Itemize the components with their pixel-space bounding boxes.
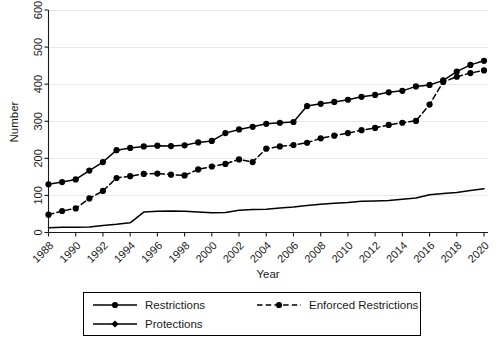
- data-point-marker: [86, 167, 92, 173]
- data-point-marker: [112, 302, 118, 308]
- data-point-marker: [209, 138, 215, 144]
- data-point-marker: [372, 125, 378, 131]
- data-point-marker: [141, 171, 147, 177]
- x-tick-label: 1990: [57, 239, 83, 265]
- x-tick-label: 1988: [30, 239, 56, 265]
- legend-swatch-diamond-solid: [92, 317, 138, 331]
- data-point-marker: [467, 62, 473, 68]
- data-point-marker: [154, 143, 160, 149]
- data-point-marker: [358, 127, 364, 133]
- data-point-marker: [100, 188, 106, 194]
- legend-label: Protections: [145, 317, 203, 331]
- data-point-marker: [127, 145, 133, 151]
- data-point-marker: [331, 133, 337, 139]
- data-point-marker: [168, 143, 174, 149]
- data-point-marker: [127, 173, 133, 179]
- data-point-marker: [481, 67, 487, 73]
- data-point-marker: [222, 161, 228, 167]
- x-tick-label: 2002: [220, 239, 246, 265]
- data-point-marker: [59, 208, 65, 214]
- data-point-marker: [154, 170, 160, 176]
- data-series-group: [45, 1, 487, 228]
- y-tick-label: 500: [32, 38, 44, 56]
- data-point-marker: [290, 142, 296, 148]
- legend-entry-restrictions[interactable]: Restrictions: [92, 296, 205, 314]
- data-point-marker: [45, 212, 51, 218]
- data-point-marker: [141, 143, 147, 149]
- series-line: [49, 70, 485, 214]
- data-point-marker: [209, 163, 215, 169]
- y-tick-label: 400: [32, 75, 44, 93]
- data-point-marker: [113, 175, 119, 181]
- data-point-marker: [440, 79, 446, 85]
- y-tick-label: 200: [32, 149, 44, 167]
- data-point-marker: [73, 176, 79, 182]
- data-point-marker: [290, 119, 296, 125]
- data-point-marker: [181, 172, 187, 178]
- x-tick-label: 2016: [411, 239, 437, 265]
- x-axis-ticks: 1988199019921994199619982000200220042006…: [30, 233, 491, 265]
- data-point-marker: [181, 142, 187, 148]
- y-tick-label: 0: [32, 229, 44, 235]
- legend-entry-enforced-restrictions[interactable]: Enforced Restrictions: [256, 296, 418, 314]
- legend-entries: RestrictionsEnforced RestrictionsProtect…: [84, 293, 420, 335]
- data-point-marker: [331, 99, 337, 105]
- y-tick-label: 300: [32, 112, 44, 130]
- data-point-marker: [413, 83, 419, 89]
- y-axis-ticks: 0100200300400500600: [32, 1, 48, 236]
- data-point-marker: [45, 181, 51, 187]
- data-point-marker: [100, 159, 106, 165]
- data-point-marker: [250, 159, 256, 165]
- data-point-marker: [358, 94, 364, 100]
- data-point-marker: [318, 135, 324, 141]
- x-axis-title: Year: [256, 268, 279, 280]
- x-tick-label: 2012: [356, 239, 382, 265]
- x-tick-label: 2008: [302, 239, 328, 265]
- data-point-marker: [59, 179, 65, 185]
- data-point-marker: [263, 146, 269, 152]
- data-point-marker: [277, 120, 283, 126]
- x-tick-label: 2018: [438, 239, 464, 265]
- x-tick-label: 2010: [329, 239, 355, 265]
- x-tick-label: 2006: [275, 239, 301, 265]
- data-point-marker: [195, 139, 201, 145]
- x-tick-label: 1992: [84, 239, 110, 265]
- y-tick-label: 100: [32, 186, 44, 204]
- y-axis-title: Number: [8, 101, 20, 142]
- chart-container: 0100200300400500600 19881990199219941996…: [0, 0, 504, 346]
- legend-swatch-circle-solid: [92, 298, 138, 312]
- legend-label: Enforced Restrictions: [309, 298, 418, 312]
- series-protections: [49, 1, 485, 228]
- series-line: [49, 189, 485, 228]
- data-point-marker: [386, 89, 392, 95]
- x-tick-label: 1998: [166, 239, 192, 265]
- chart-legend: RestrictionsEnforced RestrictionsProtect…: [83, 292, 421, 336]
- x-tick-label: 2004: [248, 239, 274, 265]
- x-tick-label: 1996: [139, 239, 165, 265]
- data-point-marker: [372, 92, 378, 98]
- data-point-marker: [345, 130, 351, 136]
- data-point-marker: [222, 130, 228, 136]
- data-point-marker: [426, 101, 432, 107]
- data-point-marker: [454, 74, 460, 80]
- data-point-marker: [481, 58, 487, 64]
- legend-entry-protections[interactable]: Protections: [92, 315, 203, 333]
- x-tick-label: 2000: [193, 239, 219, 265]
- x-tick-label: 2014: [384, 239, 410, 265]
- data-point-marker: [426, 82, 432, 88]
- data-point-marker: [277, 143, 283, 149]
- x-tick-label: 2020: [465, 239, 491, 265]
- data-point-marker: [73, 205, 79, 211]
- series-restrictions: [45, 58, 487, 188]
- data-point-marker: [236, 126, 242, 132]
- data-point-marker: [250, 124, 256, 130]
- data-point-marker: [304, 103, 310, 109]
- data-point-marker: [276, 302, 282, 308]
- legend-label: Restrictions: [145, 298, 205, 312]
- data-point-marker: [195, 166, 201, 172]
- x-tick-label: 1994: [111, 239, 137, 265]
- data-point-marker: [399, 120, 405, 126]
- grid-lines: [49, 10, 489, 195]
- data-point-marker: [413, 118, 419, 124]
- y-tick-label: 600: [32, 1, 44, 19]
